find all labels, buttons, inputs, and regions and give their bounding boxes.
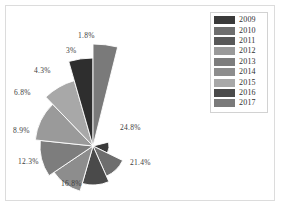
data-label-2015: 4.3% [34, 67, 51, 75]
data-label-2010: 21.4% [130, 159, 151, 167]
legend-item-2015[interactable]: 2015 [213, 77, 265, 87]
legend-swatch-2010 [214, 27, 235, 35]
legend-swatch-2016 [214, 89, 235, 97]
legend-item-2010[interactable]: 2010 [213, 25, 265, 35]
legend: 200920102011201220132014201520162017 [210, 12, 268, 113]
legend-label-2015: 2015 [239, 79, 256, 87]
legend-swatch-2012 [214, 47, 235, 55]
legend-label-2011: 2011 [239, 37, 256, 45]
legend-label-2016: 2016 [239, 89, 256, 97]
legend-label-2009: 2009 [239, 16, 256, 24]
legend-label-2017: 2017 [239, 99, 256, 107]
legend-label-2012: 2012 [239, 47, 256, 55]
data-label-2016: 3% [66, 47, 77, 55]
legend-item-2016[interactable]: 2016 [213, 88, 265, 98]
rose-wedge-2017 [93, 44, 118, 146]
legend-swatch-2011 [214, 37, 235, 45]
legend-label-2010: 2010 [239, 27, 256, 35]
data-label-2013: 8.9% [13, 127, 30, 135]
legend-swatch-2014 [214, 68, 235, 76]
legend-item-2012[interactable]: 2012 [213, 46, 265, 56]
legend-item-2017[interactable]: 2017 [213, 98, 265, 108]
legend-swatch-2015 [214, 79, 235, 87]
legend-swatch-2009 [214, 16, 235, 24]
legend-item-2011[interactable]: 2011 [213, 36, 265, 46]
data-label-2014: 6.8% [14, 89, 31, 97]
data-label-2012: 12.3% [18, 158, 39, 166]
legend-label-2014: 2014 [239, 68, 256, 76]
legend-label-2013: 2013 [239, 58, 256, 66]
data-label-2011: 16.8% [61, 180, 82, 188]
legend-item-2009[interactable]: 2009 [213, 15, 265, 25]
legend-swatch-2017 [214, 99, 235, 107]
legend-item-2014[interactable]: 2014 [213, 67, 265, 77]
chart-page: 24.8%21.4%16.8%12.3%8.9%6.8%4.3%3%1.8% 2… [0, 0, 281, 207]
data-label-2017: 1.8% [78, 32, 95, 40]
legend-item-2013[interactable]: 2013 [213, 57, 265, 67]
legend-swatch-2013 [214, 58, 235, 66]
data-label-2009: 24.8% [120, 124, 141, 132]
